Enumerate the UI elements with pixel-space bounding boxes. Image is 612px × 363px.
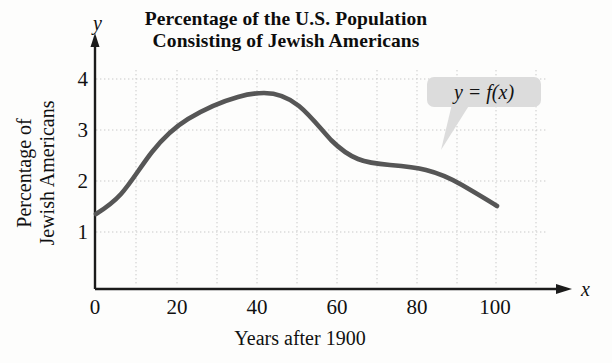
y-axis-title-line-1: Percentage of <box>13 73 36 273</box>
y-axis-variable: y <box>93 12 102 35</box>
y-tick-label-4: 4 <box>62 69 88 90</box>
y-axis <box>91 33 100 289</box>
function-callout: y = f(x) <box>427 77 541 107</box>
x-tick-label-60: 60 <box>307 297 367 318</box>
x-tick-label-100: 100 <box>465 297 525 318</box>
x-tick-label-40: 40 <box>227 297 287 318</box>
x-tick-label-80: 80 <box>387 297 447 318</box>
x-tick-label-0: 0 <box>65 297 125 318</box>
x-axis-variable: x <box>581 278 590 301</box>
y-tick-label-2: 2 <box>62 171 88 192</box>
function-callout-label: y = f(x) <box>427 77 541 107</box>
y-axis-title: Percentage of Jewish Americans <box>13 73 59 273</box>
x-axis-title: Years after 1900 <box>180 327 420 350</box>
y-tick-label-3: 3 <box>62 120 88 141</box>
y-tick-label-1: 1 <box>62 222 88 243</box>
x-axis <box>95 284 572 294</box>
y-axis-title-line-2: Jewish Americans <box>36 73 59 273</box>
callout-pointer <box>441 104 470 150</box>
x-tick-label-20: 20 <box>147 297 207 318</box>
chart-figure: Percentage of the U.S. Population Consis… <box>0 0 612 363</box>
